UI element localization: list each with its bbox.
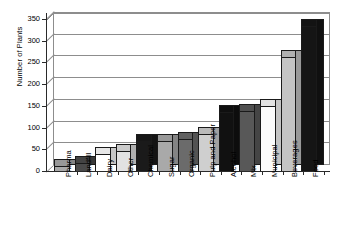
x-axis-tick bbox=[118, 171, 119, 175]
x-axis-label: Pulp and Paper bbox=[209, 124, 217, 177]
x-axis-label: Food bbox=[312, 160, 320, 178]
gridline-riser bbox=[46, 41, 54, 49]
x-axis-label: Other bbox=[127, 158, 135, 177]
x-axis-tick bbox=[262, 171, 263, 175]
x-axis-label: Beverages bbox=[291, 140, 299, 177]
bar bbox=[239, 111, 255, 172]
x-axis-tick bbox=[159, 171, 160, 175]
gridline-riser bbox=[46, 19, 54, 27]
y-axis-tick-label: 200 bbox=[20, 80, 40, 88]
x-axis-tick bbox=[138, 171, 139, 175]
y-axis-tick-label: 50 bbox=[20, 145, 40, 153]
y-axis-tick bbox=[42, 171, 46, 172]
x-axis-tick bbox=[283, 171, 284, 175]
x-axis-label: Sugar bbox=[168, 156, 176, 177]
gridline-riser bbox=[46, 106, 54, 114]
plot-area bbox=[46, 13, 330, 172]
y-axis-tick bbox=[42, 19, 46, 20]
x-axis-label: Chemical bbox=[147, 145, 155, 177]
gridline bbox=[53, 34, 330, 35]
x-axis-tick bbox=[241, 171, 242, 175]
y-axis-line bbox=[46, 13, 47, 172]
y-axis-tick bbox=[42, 106, 46, 107]
gridline-riser bbox=[46, 128, 54, 136]
bar-side-face bbox=[317, 19, 324, 165]
y-axis-tick-label: 150 bbox=[20, 102, 40, 110]
x-axis-label: Alcohol bbox=[230, 152, 238, 177]
x-axis-tick bbox=[180, 171, 181, 175]
x-axis-label: Organic bbox=[188, 150, 196, 177]
gridline-riser bbox=[46, 62, 54, 70]
bar bbox=[301, 26, 317, 172]
bar-chart: Number of Plants 050100150200250300350 P… bbox=[0, 0, 342, 235]
x-axis-tick bbox=[324, 171, 325, 175]
x-axis-label: Dairy bbox=[106, 159, 114, 177]
y-axis-tick bbox=[42, 84, 46, 85]
y-axis-tick bbox=[42, 128, 46, 129]
gridline-riser bbox=[46, 149, 54, 157]
x-axis-label: Landfill bbox=[85, 152, 93, 177]
y-axis-tick-label: 0 bbox=[20, 167, 40, 175]
gridline bbox=[53, 12, 330, 13]
y-axis-tick bbox=[42, 41, 46, 42]
x-axis-label: Municipal bbox=[271, 144, 279, 177]
y-axis-tick-label: 250 bbox=[20, 58, 40, 66]
x-axis-tick bbox=[77, 171, 78, 175]
x-axis-tick bbox=[200, 171, 201, 175]
x-axis-label: Pharma bbox=[65, 150, 73, 177]
y-axis-tick-label: 300 bbox=[20, 37, 40, 45]
y-axis-tick-label: 100 bbox=[20, 124, 40, 132]
gridline-riser bbox=[46, 84, 54, 92]
x-axis-label: Mix bbox=[250, 165, 258, 177]
y-axis-tick bbox=[42, 62, 46, 63]
x-axis-tick bbox=[221, 171, 222, 175]
y-axis-tick bbox=[42, 149, 46, 150]
x-axis-tick bbox=[97, 171, 98, 175]
x-axis-tick bbox=[303, 171, 304, 175]
y-axis-tick-label: 350 bbox=[20, 15, 40, 23]
